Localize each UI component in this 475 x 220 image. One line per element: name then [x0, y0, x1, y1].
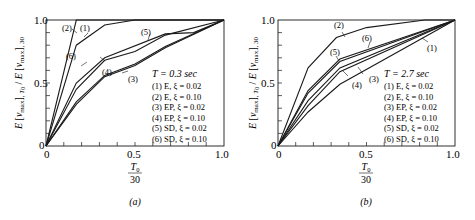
- x-tick-0: 0: [44, 148, 50, 160]
- legend-item-2: (2) E, ξ = 0.10: [152, 92, 201, 102]
- callout-6: (6): [362, 33, 372, 43]
- legend-title: T = 0.3 sec: [152, 68, 197, 79]
- panel-label-b: (b): [360, 196, 372, 208]
- chart-panel-b: (2) (6) (1) (5) (4) (3) T = 2.7 sec (1) …: [247, 14, 460, 208]
- legend-item-6: (6) SD, ξ = 0.10: [152, 134, 207, 144]
- legend-item-5: (5) SD, ξ = 0.02: [152, 123, 207, 133]
- legend-item-6: (6) SD, ξ = 0.10: [384, 134, 439, 144]
- x-tick-1: 1.0: [215, 148, 229, 160]
- callout-2: (2): [62, 23, 72, 33]
- callout-1: (1): [427, 43, 437, 53]
- callout-3: (3): [128, 74, 138, 84]
- legend-item-3: (3) EP, ξ = 0.02: [152, 102, 205, 112]
- svg-text:E [vmax], T0 / E [vmax], 30: E [vmax], T0 / E [vmax], 30: [13, 36, 26, 130]
- x-tick-1: 1.0: [446, 148, 460, 160]
- callout-4: (4): [352, 80, 362, 90]
- y-tick-05: 0.5: [34, 77, 48, 89]
- x-axis-label: T0 30: [359, 161, 373, 185]
- svg-text:30: 30: [361, 174, 371, 185]
- y-tick-1: 1.0: [261, 14, 275, 26]
- legend-item-4: (4) EP, ξ = 0.10: [384, 113, 437, 123]
- legend-item-2: (2) E, ξ = 0.10: [384, 92, 433, 102]
- x-tick-05: 0.5: [359, 148, 373, 160]
- legend-item-5: (5) SD, ξ = 0.02: [384, 123, 439, 133]
- y-tick-05: 0.5: [261, 77, 275, 89]
- svg-text:T0: T0: [131, 161, 140, 173]
- callout-3: (3): [369, 74, 379, 84]
- svg-text:30: 30: [130, 174, 140, 185]
- callout-5: (5): [330, 47, 340, 57]
- x-tick-05: 0.5: [127, 148, 141, 160]
- legend-title: T = 2.7 sec: [384, 68, 429, 79]
- legend-item-4: (4) EP, ξ = 0.10: [152, 113, 205, 123]
- callout-6: (6): [66, 51, 76, 61]
- legend-item-1: (1) E, ξ = 0.02: [384, 81, 433, 91]
- svg-text:T0: T0: [362, 161, 371, 173]
- x-axis-label: T0 30: [128, 161, 142, 185]
- y-axis-label: E [vmax], T0 / E [vmax], 30: [247, 36, 260, 130]
- svg-text:E [vmax], T0 / E [vmax], 30: E [vmax], T0 / E [vmax], 30: [247, 36, 260, 130]
- legend-item-3: (3) EP, ξ = 0.02: [384, 102, 437, 112]
- callout-5: (5): [141, 27, 151, 37]
- callout-2: (2): [334, 20, 344, 30]
- chart-panel-a: (2) (1) (6) (4) (3) (5) T = 0.3 sec (1) …: [13, 14, 229, 208]
- y-tick-1: 1.0: [34, 14, 48, 26]
- panel-label-a: (a): [129, 196, 141, 208]
- callout-1: (1): [80, 23, 90, 33]
- figure-canvas: (2) (1) (6) (4) (3) (5) T = 0.3 sec (1) …: [0, 0, 475, 220]
- x-tick-0: 0: [276, 148, 282, 160]
- callout-4: (4): [102, 67, 112, 77]
- y-axis-label: E [vmax], T0 / E [vmax], 30: [13, 36, 26, 130]
- legend-item-1: (1) E, ξ = 0.02: [152, 81, 201, 91]
